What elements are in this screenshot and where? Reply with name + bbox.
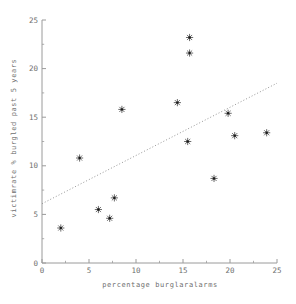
y-tick-label: 15	[29, 113, 38, 122]
marker-center-dot	[78, 157, 80, 159]
data-point-marker	[111, 194, 118, 201]
data-point-marker	[186, 34, 193, 41]
marker-center-dot	[265, 132, 267, 134]
marker-center-dot	[234, 134, 236, 136]
data-point-marker	[76, 154, 83, 161]
marker-center-dot	[60, 227, 62, 229]
x-tick-label: 10	[131, 266, 141, 275]
data-point-marker	[118, 106, 125, 113]
x-tick-label: 0	[40, 266, 45, 275]
y-axis-title: victimrate % burgled past 5 years	[10, 59, 18, 218]
marker-center-dot	[213, 177, 215, 179]
y-tick-label: 20	[29, 64, 39, 73]
data-point-marker	[106, 215, 113, 222]
trend-line	[42, 83, 277, 204]
data-point-marker	[57, 224, 64, 231]
plot-canvas: 05101520250510152025	[0, 0, 296, 304]
y-tick-label: 5	[33, 210, 38, 219]
marker-center-dot	[108, 217, 110, 219]
marker-center-dot	[97, 208, 99, 210]
marker-center-dot	[121, 108, 123, 110]
data-point-marker	[225, 110, 232, 117]
y-tick-label: 0	[33, 259, 38, 268]
x-tick-label: 20	[225, 266, 235, 275]
marker-center-dot	[113, 197, 115, 199]
data-point-marker	[210, 175, 217, 182]
data-point-marker	[186, 49, 193, 56]
x-axis-title: percentage burglaralarms	[102, 281, 218, 289]
marker-center-dot	[176, 101, 178, 103]
y-tick-label: 10	[29, 161, 39, 170]
y-tick-label: 25	[29, 16, 38, 25]
scatter-plot-figure: 05101520250510152025 percentage burglara…	[0, 0, 296, 304]
x-tick-label: 5	[87, 266, 92, 275]
marker-center-dot	[188, 36, 190, 38]
marker-center-dot	[227, 112, 229, 114]
x-tick-label: 15	[178, 266, 187, 275]
x-tick-label: 25	[272, 266, 281, 275]
data-point-marker	[184, 138, 191, 145]
data-point-marker	[174, 99, 181, 106]
marker-center-dot	[187, 140, 189, 142]
data-point-marker	[95, 206, 102, 213]
data-point-marker	[263, 129, 270, 136]
marker-center-dot	[188, 52, 190, 54]
data-point-marker	[231, 132, 238, 139]
